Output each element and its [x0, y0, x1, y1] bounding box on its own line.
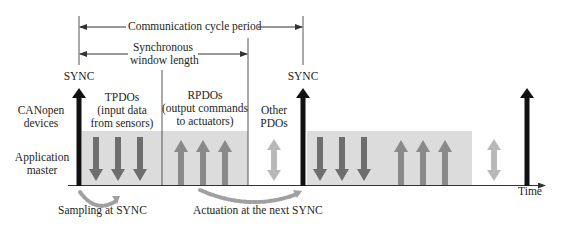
rpdo-arrows-2: [394, 140, 452, 185]
actuation-label: Actuation at the next SYNC: [193, 204, 323, 217]
sync-label-2: SYNC: [286, 70, 320, 83]
rpdo-arrows-1: [174, 140, 232, 185]
sampling-label: Sampling at SYNC: [58, 204, 147, 217]
sync-label-1: SYNC: [62, 70, 96, 83]
other-pdo-arrow-1: [267, 139, 281, 181]
time-axis-label: Time: [514, 185, 546, 198]
other-pdo-label: Other PDOs: [254, 104, 294, 130]
other-pdo-arrow-2: [487, 139, 501, 181]
master-row-label: Application master: [12, 151, 72, 177]
tpdo-arrows-1: [89, 137, 147, 181]
tpdo-arrows-2: [313, 137, 371, 181]
sync-window-label: Synchronous window length: [130, 41, 196, 67]
actuation-curve: [200, 190, 302, 202]
tpdo-label: TPDOs (input data from sensors): [84, 91, 160, 130]
cycle-period-label: Communication cycle period: [128, 20, 262, 33]
devices-row-label: CANopen devices: [16, 104, 66, 130]
sync-arrow-3: [520, 88, 534, 186]
rpdo-label: RPDOs (output commands to actuators): [162, 89, 248, 128]
